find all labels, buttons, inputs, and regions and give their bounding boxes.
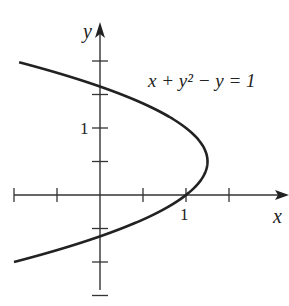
y-tick-label-1: 1 [80,119,89,138]
equation-annotation: x + y² − y = 1 [147,70,255,91]
y-axis-label: y [81,20,92,43]
x-tick-label-1: 1 [180,205,189,224]
x-axis-label: x [272,205,282,227]
parabola-curve [14,62,208,262]
parabola-chart: y x x + y² − y = 1 1 1 [0,0,289,306]
